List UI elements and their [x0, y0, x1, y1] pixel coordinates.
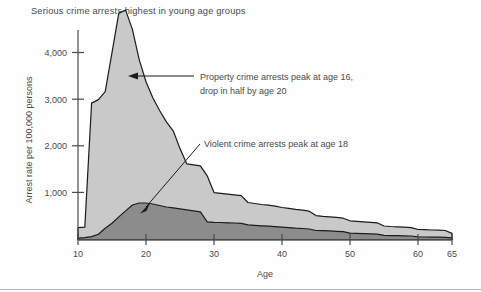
- x-tick-label-30: 30: [209, 249, 219, 259]
- property-annotation-line-2: drop in half by age 20: [200, 86, 287, 96]
- x-tick-label-60: 60: [413, 249, 423, 259]
- x-tick-label-20: 20: [141, 249, 151, 259]
- violent-annotation-line-1: Violent crime arrests peak at age 18: [204, 139, 348, 149]
- y-axis-title: Arrest rate per 100,000 persons: [24, 76, 34, 204]
- y-tick-labels: 4,000 3,000 2,000 1,000: [44, 48, 67, 198]
- x-tick-label-40: 40: [277, 249, 287, 259]
- chart-figure: Serious crime arrests highest in young a…: [0, 0, 481, 292]
- property-annotation-line-1: Property crime arrests peak at age 16,: [200, 72, 353, 82]
- x-tick-label-50: 50: [345, 249, 355, 259]
- x-tick-labels: 10 20 30 40 50 60 65: [73, 249, 457, 259]
- property-annotation: Property crime arrests peak at age 16, d…: [128, 72, 353, 96]
- x-axis-title: Age: [257, 269, 273, 279]
- crime-arrest-rate-area-chart: 4,000 3,000 2,000 1,000 10 20 30 40 50 6…: [0, 0, 481, 292]
- x-tick-label-65: 65: [447, 249, 457, 259]
- x-tick-label-10: 10: [73, 249, 83, 259]
- y-tick-label-3000: 3,000: [44, 95, 67, 105]
- y-tick-label-1000: 1,000: [44, 188, 67, 198]
- figure-bottom-rule: [0, 289, 481, 290]
- y-tick-label-4000: 4,000: [44, 48, 67, 58]
- y-tick-label-2000: 2,000: [44, 141, 67, 151]
